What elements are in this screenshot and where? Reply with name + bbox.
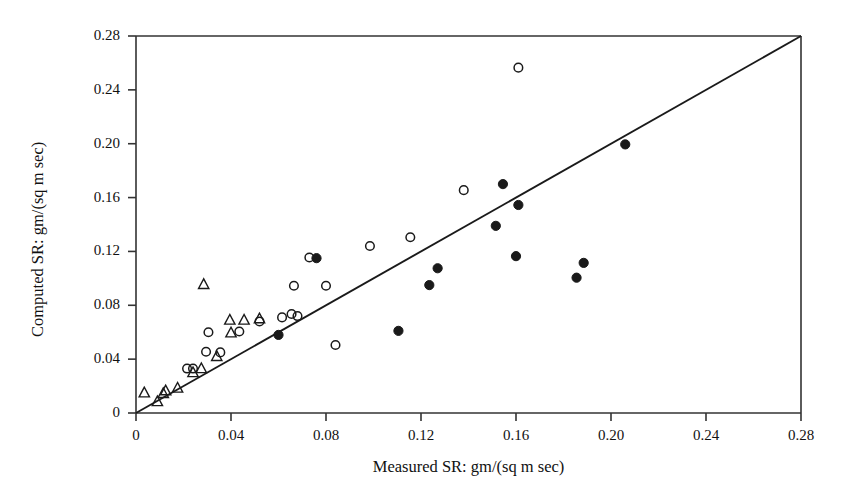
data-point-open-triangle xyxy=(139,387,149,397)
x-axis-tick-label: 0.04 xyxy=(201,427,261,444)
y-axis-label: Computed SR: gm/(sq m sec) xyxy=(28,141,48,336)
data-point-filled-circle xyxy=(433,264,442,273)
data-point-filled-circle xyxy=(491,221,500,230)
x-axis-tick-label: 0.12 xyxy=(391,427,451,444)
x-axis-tick-label: 0.08 xyxy=(296,427,356,444)
y-axis-tick-label: 0.04 xyxy=(64,350,120,367)
y-axis-tick-label: 0.20 xyxy=(64,135,120,152)
data-point-filled-circle xyxy=(425,280,434,289)
data-point-filled-circle xyxy=(511,252,520,261)
x-axis-tick-label: 0.28 xyxy=(771,427,831,444)
data-point-filled-circle xyxy=(394,326,403,335)
data-point-open-circle xyxy=(459,186,468,195)
data-point-open-circle xyxy=(366,242,375,251)
x-axis-tick-label: 0.20 xyxy=(581,427,641,444)
x-axis-label: Measured SR: gm/(sq m sec) xyxy=(36,457,846,477)
data-point-open-triangle xyxy=(199,279,209,289)
x-axis-tick-label: 0 xyxy=(106,427,166,444)
data-point-open-circle xyxy=(322,281,331,290)
y-axis-tick-label: 0.08 xyxy=(64,296,120,313)
data-point-open-circle xyxy=(235,327,244,336)
y-axis-tick-label: 0.28 xyxy=(64,27,120,44)
data-point-open-triangle xyxy=(239,314,249,324)
scatter-plot-figure: 00.040.080.120.160.200.240.2800.040.080.… xyxy=(0,0,846,502)
data-point-open-circle xyxy=(406,233,415,242)
data-point-filled-circle xyxy=(514,200,523,209)
data-point-filled-circle xyxy=(621,140,630,149)
x-axis-tick-label: 0.16 xyxy=(486,427,546,444)
x-axis-tick-label: 0.24 xyxy=(676,427,736,444)
data-point-open-circle xyxy=(278,313,287,322)
data-point-filled-circle xyxy=(579,258,588,267)
data-point-open-circle xyxy=(204,328,213,337)
one-to-one-reference-line xyxy=(136,36,801,413)
data-point-open-circle xyxy=(202,347,211,356)
data-point-open-circle xyxy=(514,63,523,72)
data-point-open-circle xyxy=(331,341,340,350)
data-point-open-triangle xyxy=(225,314,235,324)
y-axis-tick-label: 0.16 xyxy=(64,189,120,206)
y-axis-tick-label: 0.24 xyxy=(64,81,120,98)
data-point-filled-circle xyxy=(274,330,283,339)
data-point-filled-circle xyxy=(572,273,581,282)
y-axis-tick-label: 0 xyxy=(64,404,120,421)
data-point-filled-circle xyxy=(498,180,507,189)
y-axis-tick-label: 0.12 xyxy=(64,242,120,259)
data-point-open-circle xyxy=(290,281,299,290)
data-point-filled-circle xyxy=(312,254,321,263)
